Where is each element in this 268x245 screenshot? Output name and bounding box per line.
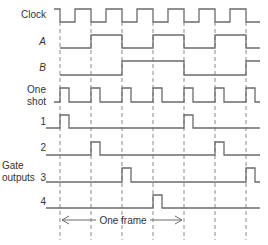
waveform-clock xyxy=(54,9,260,22)
signal-label-clock: Clock xyxy=(21,9,47,20)
waveform-one-shot xyxy=(54,88,260,102)
signal-label-b: B xyxy=(39,62,46,73)
signal-label-gate-1: 1 xyxy=(40,116,46,127)
one-frame-annotation: One frame xyxy=(62,215,182,226)
one-frame-label: One frame xyxy=(99,215,147,226)
timing-diagram-canvas: Clock A B One shot 1 2 Gate outputs 3 4 … xyxy=(0,0,268,245)
signal-label-one-shot-line1: One xyxy=(27,84,46,95)
signal-label-gate-3: 3 xyxy=(40,172,46,183)
waveform-A xyxy=(60,35,260,48)
signal-label-a: A xyxy=(38,36,46,47)
timing-diagram: Clock A B One shot 1 2 Gate outputs 3 4 … xyxy=(0,0,268,245)
waveform-gate-4 xyxy=(46,195,260,208)
signal-label-gate-2: 2 xyxy=(40,142,46,153)
signal-label-gate-4: 4 xyxy=(40,196,46,207)
waveform-B xyxy=(60,61,260,75)
group-label-outputs-line2: outputs xyxy=(2,172,35,183)
group-label-gate-line1: Gate xyxy=(2,160,24,171)
signal-label-one-shot-line2: shot xyxy=(27,96,46,107)
